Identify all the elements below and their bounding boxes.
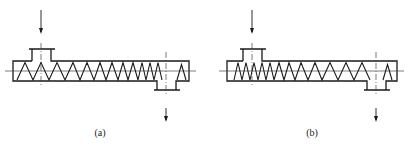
screw-conveyor-diagram: [0, 0, 412, 151]
caption-b: (b): [306, 127, 318, 138]
panel-b-screw-increasing-pitch: [219, 10, 404, 122]
panel-a-screw-decreasing-pitch: [5, 10, 196, 122]
discharge-arrow-head-icon: [374, 116, 378, 122]
screw-tail-flight: [177, 65, 186, 81]
feed-arrow-head-icon: [39, 28, 43, 34]
barrel-outline: [13, 49, 189, 90]
discharge-arrow-head-icon: [164, 116, 168, 122]
screw-tail-flight: [383, 65, 392, 81]
feed-arrow-head-icon: [250, 28, 254, 34]
caption-a: (a): [94, 127, 105, 138]
